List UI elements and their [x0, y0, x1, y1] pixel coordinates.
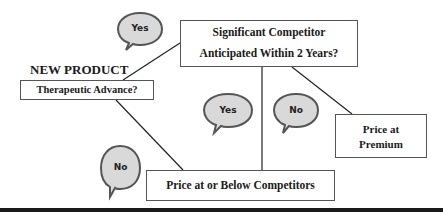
bubble-label: Yes [117, 23, 163, 33]
new-product-heading: NEW PRODUCT [30, 62, 128, 78]
bubble-label: No [100, 162, 141, 172]
price-premium-line1: Price at [336, 123, 426, 136]
speech-bubble-no-1: No [273, 93, 319, 135]
price-premium-line2: Premium [336, 138, 426, 151]
bubble-label: Yes [203, 105, 253, 115]
speech-bubble-icon [100, 145, 141, 199]
speech-bubble-yes-2: Yes [203, 93, 253, 135]
price-premium-box: Price at Premium [335, 114, 427, 158]
speech-bubble-yes-1: Yes [117, 12, 163, 52]
competitor-question-box: Significant Competitor Anticipated Withi… [180, 20, 358, 67]
therapeutic-advance-box: Therapeutic Advance? [20, 80, 154, 100]
price-below-competitors-box: Price at or Below Competitors [146, 170, 335, 201]
competitor-question-line2: Anticipated Within 2 Years? [181, 46, 357, 60]
competitor-question-line1: Significant Competitor [181, 25, 357, 39]
bubble-label: No [273, 105, 319, 115]
speech-bubble-no-2: No [100, 145, 141, 199]
bottom-divider [0, 208, 443, 212]
decision-tree-diagram: Significant Competitor Anticipated Withi… [0, 0, 443, 215]
price-below-competitors-label: Price at or Below Competitors [147, 171, 334, 200]
therapeutic-advance-label: Therapeutic Advance? [21, 81, 153, 99]
